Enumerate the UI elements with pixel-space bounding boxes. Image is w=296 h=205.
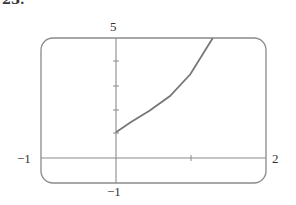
graph: 5 −1 −1 2 [0,0,296,205]
y-max-label: 5 [110,19,117,34]
x-min-label: −1 [17,151,31,166]
y-min-label: −1 [107,184,121,199]
x-max-label: 2 [272,151,279,166]
function-curve [116,38,213,132]
viewing-window-frame [41,38,266,183]
